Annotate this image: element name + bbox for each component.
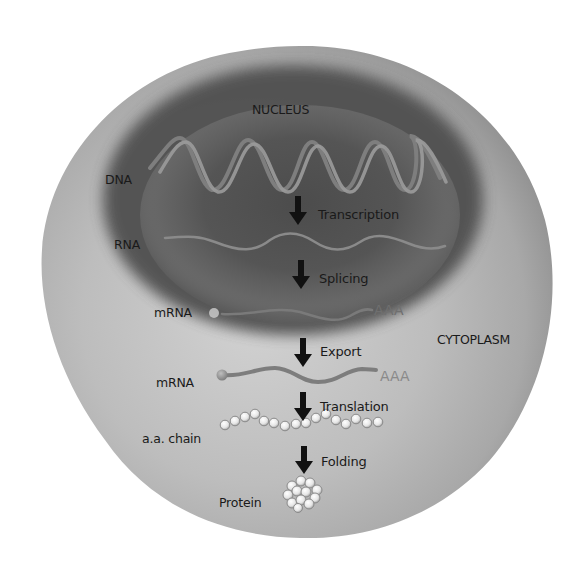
step-splicing-label: Splicing [319,272,368,285]
step-export-label: Export [320,345,361,358]
dna-label: DNA [105,174,132,187]
mrna-5prime-cap [217,370,228,381]
step-translation-label: Translation [320,400,389,413]
poly-a-tail-cytoplasmic: AAA [380,369,410,383]
cell-illustration [0,0,585,574]
mrna-nuclear-label: mRNA [154,307,192,320]
mrna-cytoplasmic-label: mRNA [156,377,194,390]
step-transcription-label: Transcription [318,208,399,221]
rna-label: RNA [114,239,140,252]
cytoplasm-label: CYTOPLASM [437,334,510,347]
poly-a-tail-nuclear: AAA [374,303,404,317]
protein-label: Protein [219,497,261,510]
diagram-canvas: NUCLEUS CYTOPLASM DNA RNA mRNA AAA mRNA … [0,0,585,574]
nucleus-label: NUCLEUS [252,104,309,117]
step-folding-label: Folding [321,455,367,468]
aa-chain-label: a.a. chain [142,433,201,446]
mrna-nuclear-cap [209,308,219,318]
